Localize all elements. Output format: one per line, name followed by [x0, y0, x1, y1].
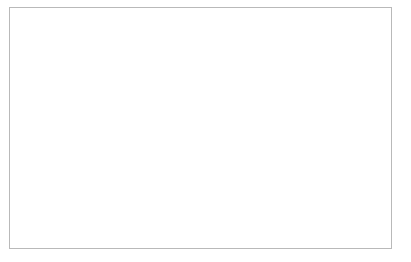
figure-border	[9, 7, 392, 249]
chart-figure: 02,0004,0006,0008,00010,00012,00014,0001…	[0, 0, 411, 262]
